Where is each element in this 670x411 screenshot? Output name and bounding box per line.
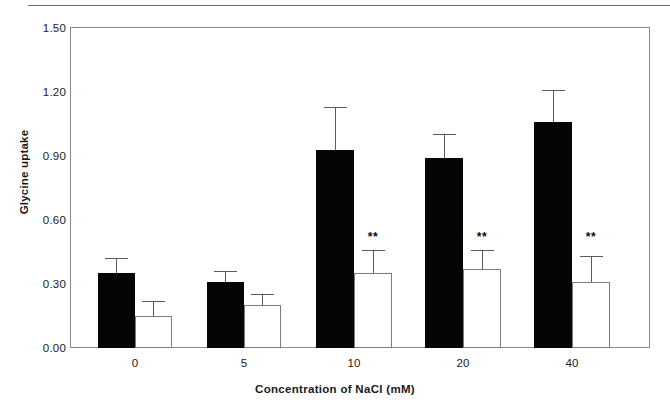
bar-filled-10: [316, 150, 354, 348]
error-bar-cap-filled-5: [214, 271, 237, 272]
bar-open-40: [572, 282, 610, 348]
bar-open-5: [244, 305, 281, 348]
x-tick-label-0: 0: [105, 357, 165, 370]
error-bar-cap-filled-10: [324, 107, 347, 108]
error-bar-cap-filled-0: [105, 258, 128, 259]
x-tick-label-5: 5: [214, 357, 274, 370]
error-bar-stem-filled-10: [335, 107, 336, 150]
bar-chart-figure: 1.50 1.20 0.90 0.60 0.30 0.00 Glycine up…: [0, 0, 670, 411]
error-bar-cap-open-20: [471, 250, 494, 251]
error-bar-cap-filled-20: [433, 134, 456, 135]
error-bar-stem-filled-40: [553, 90, 554, 122]
error-bar-stem-filled-0: [116, 258, 117, 273]
error-bar-stem-open-5: [262, 294, 263, 305]
y-tick-label-1.20: 1.20: [6, 86, 66, 98]
error-bar-cap-open-10: [362, 250, 385, 251]
bar-open-10: [354, 273, 392, 348]
significance-marker-40: **: [576, 232, 606, 242]
error-bar-stem-open-40: [591, 256, 592, 282]
bar-open-20: [463, 269, 501, 348]
error-bar-stem-open-10: [373, 250, 374, 273]
bar-filled-40: [534, 122, 572, 348]
y-axis-title: Glycine uptake: [18, 112, 30, 232]
significance-marker-20: **: [467, 232, 497, 242]
x-tick-label-40: 40: [542, 357, 602, 370]
y-tick-label-0.60: 0.60: [6, 214, 66, 226]
error-bar-cap-filled-40: [542, 90, 565, 91]
x-tick-label-20: 20: [433, 357, 493, 370]
bar-open-0: [135, 316, 172, 348]
bar-filled-20: [425, 158, 463, 348]
error-bar-stem-filled-5: [225, 271, 226, 282]
bar-filled-0: [98, 273, 135, 348]
error-bar-stem-open-20: [482, 250, 483, 269]
error-bar-stem-filled-20: [444, 134, 445, 158]
y-tick-label-0.90: 0.90: [6, 150, 66, 162]
error-bar-cap-open-0: [142, 301, 165, 302]
error-bar-cap-open-40: [580, 256, 603, 257]
page-top-rule: [28, 5, 670, 6]
bar-filled-5: [207, 282, 244, 348]
significance-marker-10: **: [358, 232, 388, 242]
x-axis-title: Concentration of NaCl (mM): [0, 383, 670, 395]
error-bar-cap-open-5: [251, 294, 274, 295]
y-tick-label-0.00: 0.00: [6, 342, 66, 354]
y-tick-label-0.30: 0.30: [6, 278, 66, 290]
x-tick-label-10: 10: [324, 357, 384, 370]
y-tick-label-1.50: 1.50: [6, 22, 66, 34]
error-bar-stem-open-0: [153, 301, 154, 316]
